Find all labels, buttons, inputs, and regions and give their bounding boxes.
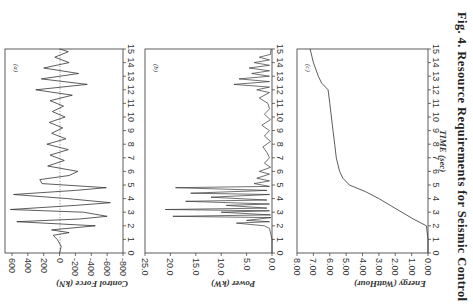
y-tick-label: 0.0 <box>267 258 277 271</box>
y-tick-label: 0 <box>55 258 65 263</box>
y-tick-label: -600 <box>102 258 112 276</box>
time-tick-label: 10 <box>275 112 285 122</box>
panel-a-x-ticks: 0123456789101112131415 <box>123 44 136 256</box>
time-tick-label: 15 <box>431 44 441 54</box>
time-tick-label: 4 <box>126 196 136 201</box>
time-tick-label: 14 <box>431 58 441 68</box>
time-tick-label: 3 <box>275 210 285 215</box>
y-tick-label: 400 <box>23 258 33 273</box>
figure-caption: Fig. 4. Resource Requirements for Seismi… <box>455 12 469 302</box>
panel-b-tag: (b) <box>152 64 160 73</box>
time-tick-label: 12 <box>126 85 136 95</box>
time-tick-label: 13 <box>126 71 136 81</box>
time-tick-label: 5 <box>431 182 441 187</box>
time-tick-label: 0 <box>431 250 441 255</box>
time-tick-label: 8 <box>275 142 285 147</box>
y-tick-label: -800 <box>118 258 128 276</box>
panel-b-x-ticks: 0123456789101112131415 <box>272 44 285 256</box>
time-tick-label: 1 <box>126 237 136 242</box>
time-tick-label: 12 <box>431 85 441 95</box>
y-tick-label: 0.00 <box>423 258 433 276</box>
time-tick-label: 5 <box>126 182 136 187</box>
y-tick-label: 8.00 <box>292 258 302 276</box>
y-tick-label: 3.00 <box>374 258 384 276</box>
panel-c-y-axis-label: Energy (WattHour) <box>354 279 427 289</box>
panel-c-tag: (c) <box>304 64 312 72</box>
time-tick-label: 4 <box>275 196 285 201</box>
time-tick-label: 9 <box>126 128 136 133</box>
y-tick-label: 1.00 <box>407 258 417 276</box>
time-tick-label: 6 <box>126 169 136 174</box>
time-tick-label: 8 <box>126 142 136 147</box>
figure-canvas: 6004002000-200-400-600-800 0123456789101… <box>0 0 473 308</box>
panel-c-energy-line <box>310 49 428 253</box>
panel-a-force-line <box>10 49 110 253</box>
y-tick-label: 5.0 <box>242 258 252 271</box>
time-tick-label: 9 <box>275 128 285 133</box>
y-tick-label: 7.00 <box>308 258 318 276</box>
panel-b: 25.020.015.010.05.00.0 01234567891011121… <box>140 44 285 289</box>
time-axis-label: TIME (sec) <box>438 130 448 173</box>
time-tick-label: 0 <box>275 250 285 255</box>
y-tick-label: -400 <box>86 258 96 276</box>
time-tick-label: 14 <box>126 58 136 68</box>
panel-a-y-axis-label: Control Force (kN) <box>56 279 128 289</box>
time-tick-label: 14 <box>275 58 285 68</box>
time-tick-label: 11 <box>275 99 285 108</box>
time-tick-label: 11 <box>431 99 441 108</box>
y-tick-label: 600 <box>7 258 17 273</box>
time-tick-label: 13 <box>275 71 285 81</box>
panel-b-power-line <box>165 49 272 253</box>
time-tick-label: 7 <box>275 155 285 160</box>
y-tick-label: 5.00 <box>341 258 351 276</box>
time-tick-label: 3 <box>126 210 136 215</box>
panel-c-frame <box>297 49 428 253</box>
panel-c-y-ticks: 8.007.006.005.004.003.002.001.000.00 <box>292 253 433 276</box>
panel-b-y-ticks: 25.020.015.010.05.00.0 <box>140 253 277 276</box>
time-tick-label: 10 <box>431 112 441 122</box>
panel-c: 8.007.006.005.004.003.002.001.000.00 012… <box>292 44 448 289</box>
time-tick-label: 5 <box>275 182 285 187</box>
y-tick-label: 15.0 <box>191 258 201 276</box>
time-tick-label: 1 <box>431 237 441 242</box>
y-tick-label: 2.00 <box>390 258 400 276</box>
y-tick-label: 10.0 <box>216 258 226 276</box>
time-tick-label: 3 <box>431 210 441 215</box>
panel-b-y-axis-label: Power (kW) <box>211 279 255 289</box>
time-tick-label: 1 <box>275 237 285 242</box>
y-tick-label: 6.00 <box>325 258 335 276</box>
time-tick-label: 2 <box>431 223 441 228</box>
time-tick-label: 2 <box>275 223 285 228</box>
time-tick-label: 13 <box>431 71 441 81</box>
time-tick-label: 6 <box>275 169 285 174</box>
panel-a-tag: (a) <box>12 64 20 73</box>
panel-a: 6004002000-200-400-600-800 0123456789101… <box>5 44 136 289</box>
time-tick-label: 12 <box>275 85 285 95</box>
y-tick-label: -200 <box>70 258 80 276</box>
time-tick-label: 11 <box>126 99 136 108</box>
panel-a-y-ticks: 6004002000-200-400-600-800 <box>7 253 128 276</box>
time-tick-label: 0 <box>126 250 136 255</box>
time-tick-label: 4 <box>431 196 441 201</box>
time-tick-label: 2 <box>126 223 136 228</box>
y-tick-label: 200 <box>39 258 49 273</box>
y-tick-label: 20.0 <box>165 258 175 276</box>
time-tick-label: 10 <box>126 112 136 122</box>
time-tick-label: 15 <box>126 44 136 54</box>
time-tick-label: 15 <box>275 44 285 54</box>
y-tick-label: 4.00 <box>358 258 368 276</box>
time-tick-label: 7 <box>126 155 136 160</box>
y-tick-label: 25.0 <box>140 258 150 276</box>
